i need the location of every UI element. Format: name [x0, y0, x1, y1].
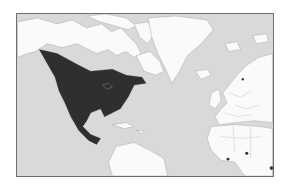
- map-frame: [16, 13, 274, 177]
- spot-europe-1: [242, 78, 244, 80]
- spot-africa-1: [245, 152, 248, 155]
- spot-africa-2: [227, 158, 230, 161]
- world-map: [17, 14, 273, 176]
